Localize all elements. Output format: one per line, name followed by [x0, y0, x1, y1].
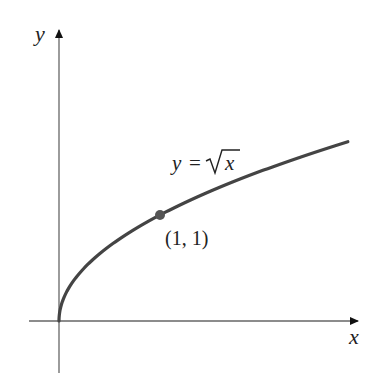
point-marker: [155, 210, 165, 220]
equation-lhs: y: [170, 151, 182, 175]
sqrt-graph: y x (1, 1) y = x: [0, 0, 383, 392]
y-axis-label: y: [33, 21, 45, 46]
equation-radicand: x: [224, 151, 235, 175]
curve-equation-label: y = x: [170, 150, 240, 175]
x-axis-label: x: [348, 324, 359, 349]
equation-equals: =: [189, 151, 201, 175]
point-label: (1, 1): [165, 227, 208, 250]
radical-sign-icon: [206, 150, 240, 173]
